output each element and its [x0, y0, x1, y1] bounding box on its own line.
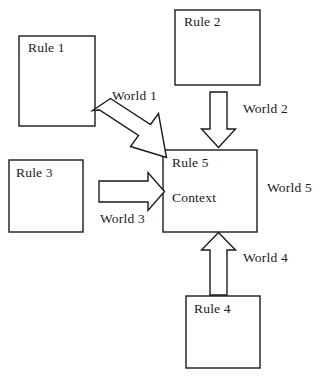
edge-world2-label: World 2 — [243, 101, 288, 117]
arrow-world2 — [202, 92, 236, 148]
node-rule5-sublabel: Context — [172, 190, 216, 206]
arrow-world4 — [202, 233, 236, 296]
edge-world1-label: World 1 — [112, 88, 157, 104]
arrow-world3 — [99, 173, 165, 211]
edge-world4-label: World 4 — [243, 250, 288, 266]
diagram-canvas: Rule 1 Rule 2 Rule 3 Rule 4 Rule 5 Conte… — [0, 0, 330, 380]
node-rule3-label: Rule 3 — [16, 165, 53, 181]
node-rule4-label: Rule 4 — [194, 301, 231, 317]
arrow-world1 — [93, 99, 167, 158]
node-rule2-label: Rule 2 — [184, 14, 221, 30]
node-rule1-label: Rule 1 — [28, 40, 65, 56]
node-rule5-label: Rule 5 — [172, 155, 209, 171]
edge-world3-label: World 3 — [100, 211, 145, 227]
annotation-world5-label: World 5 — [267, 180, 312, 196]
